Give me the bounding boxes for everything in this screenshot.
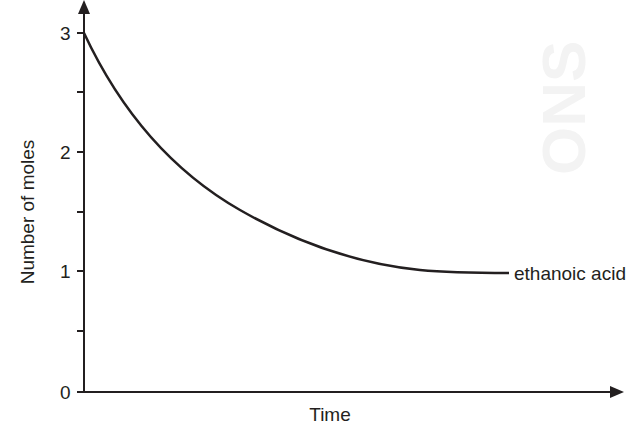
y-axis-label: Number of moles bbox=[17, 140, 38, 285]
x-axis-arrow-icon bbox=[610, 386, 624, 398]
y-tick-0: 0 bbox=[60, 382, 71, 403]
watermark: ONS bbox=[529, 41, 598, 175]
chart: ONS 0 1 2 3 Number of moles Time ethanoi… bbox=[0, 0, 639, 434]
y-ticks bbox=[77, 33, 84, 392]
x-axis-label: Time bbox=[309, 404, 351, 425]
y-tick-3: 3 bbox=[60, 23, 71, 44]
series-label-ethanoic-acid: ethanoic acid bbox=[514, 263, 626, 284]
y-tick-1: 1 bbox=[60, 261, 71, 282]
y-tick-2: 2 bbox=[60, 142, 71, 163]
y-axis-arrow-icon bbox=[78, 0, 90, 14]
ethanoic-acid-curve bbox=[84, 33, 509, 273]
